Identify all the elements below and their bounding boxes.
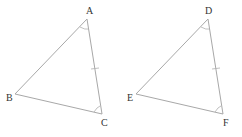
triangle-def: D E F — [127, 5, 229, 128]
vertex-label-b: B — [6, 92, 13, 103]
tick-mark-ac — [91, 68, 99, 69]
triangle-abc: A B C — [6, 5, 108, 128]
vertex-label-a: A — [86, 5, 94, 16]
vertex-label-e: E — [127, 92, 133, 103]
angle-arc-a — [80, 27, 89, 29]
vertex-label-d: D — [205, 5, 212, 16]
angle-arc-d — [201, 27, 210, 29]
vertex-label-c: C — [101, 117, 108, 128]
angle-arc-c — [94, 106, 100, 112]
vertex-label-f: F — [223, 117, 229, 128]
triangles-diagram: A B C D E F — [0, 0, 242, 137]
angle-arc-f — [215, 106, 221, 112]
tick-mark-df — [212, 68, 220, 69]
